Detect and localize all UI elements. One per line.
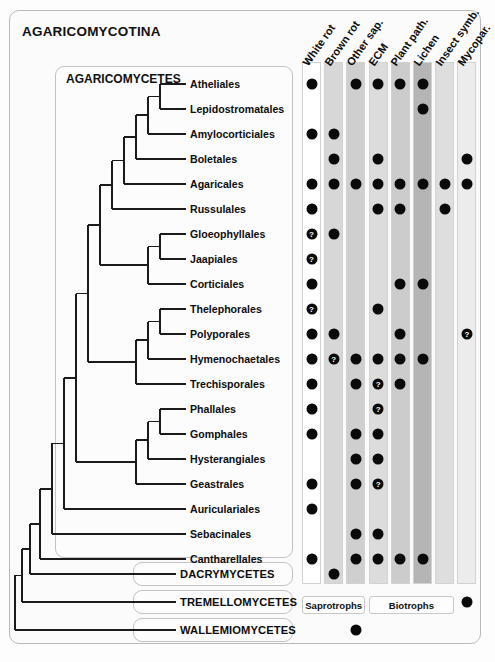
trait-dot-white-rot-trechisporales <box>306 379 317 390</box>
branch-horizontal <box>124 183 186 185</box>
trait-dot-white-rot-jaapiales: ? <box>306 254 317 265</box>
trait-dot-other-sap-hysterangiales <box>350 454 361 465</box>
trait-dot-other-sap-hymenochaetales <box>350 354 361 365</box>
matrix-column-brown-rot <box>324 62 343 584</box>
trait-dot-other-sap-cantharellales <box>350 554 361 565</box>
group-box-biotrophs: Biotrophs <box>369 596 455 614</box>
trait-dot-lichen-corticiales <box>417 279 428 290</box>
tip-label-gloeophyllales: Gloeophyllales <box>190 228 265 240</box>
clade-arm <box>148 96 160 98</box>
clade-arm <box>88 224 100 226</box>
trait-dot-brown-rot-agaricales <box>328 179 339 190</box>
clade-arm <box>136 114 148 116</box>
trait-dot-mycopar-polyporales: ? <box>461 329 472 340</box>
tip-label-hymenochaetales: Hymenochaetales <box>190 353 280 365</box>
trait-dot-plant-path-polyporales <box>395 329 406 340</box>
branch-horizontal <box>148 358 186 360</box>
matrix-column-ecm <box>369 62 388 584</box>
branch-horizontal <box>136 483 186 485</box>
trait-dot-white-rot-geastrales <box>306 479 317 490</box>
branch-horizontal <box>148 458 186 460</box>
trait-matrix: ???????? <box>302 62 482 584</box>
branch-horizontal <box>40 558 186 560</box>
trait-dot-other-sap-geastrales <box>350 479 361 490</box>
trait-dot-ecm-sebacinales <box>373 529 384 540</box>
trait-dot-plant-path-trechisporales <box>395 379 406 390</box>
trait-dot-other-sap-agaricales <box>350 179 361 190</box>
trait-dot-ecm-atheliales <box>373 79 384 90</box>
trait-dot-plant-path-cantharellales <box>395 554 406 565</box>
trait-dot-ecm-geastrales: ? <box>373 479 384 490</box>
trait-dot-mycopar-agaricales <box>461 179 472 190</box>
clade-arm <box>160 83 186 85</box>
matrix-column-insect-symb <box>435 62 454 584</box>
clade-arm <box>160 233 186 235</box>
tip-label-geastrales: Geastrales <box>190 478 244 490</box>
tip-label-atheliales: Atheliales <box>190 78 240 90</box>
subphylum-title: AGARICOMYCOTINA <box>22 24 161 39</box>
clade-arm <box>52 443 64 445</box>
trait-dot-insect-symb-russulales <box>439 204 450 215</box>
tip-label-boletales: Boletales <box>190 153 237 165</box>
branch-horizontal <box>76 461 136 463</box>
trait-dot-lichen-cantharellales <box>417 554 428 565</box>
tip-label-polyporales: Polyporales <box>190 328 250 340</box>
trait-dot-lichen-agaricales <box>417 179 428 190</box>
trait-dot-plant-path-russulales <box>395 204 406 215</box>
tip-label-dacrymycetes: DACRYMYCETES <box>180 568 275 580</box>
trait-dot-brown-rot-gloeophyllales <box>328 229 339 240</box>
trait-dot-ecm-gomphales <box>373 429 384 440</box>
trait-dot-white-rot-amylocorticiales <box>306 129 317 140</box>
trait-dot-ecm-russulales <box>373 204 384 215</box>
clade-arm <box>100 184 112 186</box>
trait-dot-brown-rot-boletales <box>328 154 339 165</box>
clade-arm <box>136 339 148 341</box>
trait-dot-white-rot-atheliales <box>306 79 317 90</box>
tip-label-thelephorales: Thelephorales <box>190 303 262 315</box>
tip-label-jaapiales: Jaapiales <box>190 253 238 265</box>
trait-dot-ecm-thelephorales <box>373 304 384 315</box>
trait-dot-ecm-trechisporales: ? <box>373 379 384 390</box>
trait-dot-brown-rot-dacrymycetes <box>328 569 339 580</box>
clade-arm <box>30 523 40 525</box>
clade-arm <box>15 575 22 577</box>
trait-dot-other-sap-atheliales <box>350 79 361 90</box>
trait-dot-lichen-lepidostromatales <box>417 104 428 115</box>
branch-horizontal <box>136 383 186 385</box>
matrix-column-plant-path <box>391 62 410 584</box>
trait-dot-white-rot-gloeophyllales: ? <box>306 229 317 240</box>
clade-arm <box>64 377 76 379</box>
tip-label-trechisporales: Trechisporales <box>190 378 265 390</box>
trait-dot-lichen-hymenochaetales <box>417 354 428 365</box>
branch-horizontal <box>148 133 186 135</box>
trait-dot-insect-symb-agaricales <box>439 179 450 190</box>
tip-label-phallales: Phallales <box>190 403 236 415</box>
phylogeny-figure: AGARICOMYCOTINA AGARICOMYCETES Atheliale… <box>0 0 495 662</box>
trait-dot-white-rot-russulales <box>306 204 317 215</box>
trait-dot-ecm-boletales <box>373 154 384 165</box>
matrix-column-other-sap <box>346 62 365 584</box>
trait-dot-other-sap-gomphales <box>350 429 361 440</box>
trait-dot-white-rot-gomphales <box>306 429 317 440</box>
branch-horizontal <box>22 601 176 603</box>
trait-dot-white-rot-hymenochaetales <box>306 354 317 365</box>
trait-dot-brown-rot-hymenochaetales: ? <box>328 354 339 365</box>
trait-dot-lichen-atheliales <box>417 79 428 90</box>
branch-horizontal <box>88 361 136 363</box>
branch-horizontal <box>100 264 148 266</box>
trait-dot-plant-path-atheliales <box>395 79 406 90</box>
clade-arm <box>160 258 186 260</box>
tip-label-russulales: Russulales <box>190 203 246 215</box>
trait-dot-plant-path-agaricales <box>395 179 406 190</box>
tip-label-lepidostromatales: Lepidostromatales <box>190 103 284 115</box>
clade-arm <box>148 246 160 248</box>
clade-arm <box>136 439 148 441</box>
trait-dot-white-rot-corticiales <box>306 279 317 290</box>
clade-arm <box>76 293 88 295</box>
clade-arm <box>160 308 186 310</box>
clade-arm <box>160 433 186 435</box>
trait-dot-white-rot-auriculariales <box>306 504 317 515</box>
trait-dot-ecm-hymenochaetales <box>373 354 384 365</box>
tip-label-sebacinales: Sebacinales <box>190 528 251 540</box>
matrix-column-lichen <box>413 62 432 584</box>
